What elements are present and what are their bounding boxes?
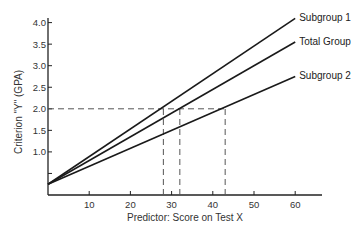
y-axis-title: Criterion "Y" (GPA) <box>13 70 24 154</box>
axes: 1020304050601.01.52.02.53.03.54.0 <box>33 17 322 210</box>
chart: 1020304050601.01.52.02.53.03.54.0 Predic… <box>0 0 360 232</box>
y-tick-label: 3.0 <box>33 60 46 71</box>
y-tick-label: 2.0 <box>33 103 46 114</box>
y-tick-label: 1.5 <box>33 125 46 136</box>
x-tick-label: 50 <box>249 199 260 210</box>
labels: Predictor: Score on Test XCriterion "Y" … <box>13 12 351 223</box>
series-line-subgroup-2 <box>48 76 295 184</box>
y-tick-label: 3.5 <box>33 39 46 50</box>
dashed-guides <box>48 109 225 195</box>
series-line-total-group <box>48 42 295 184</box>
x-tick-label: 10 <box>84 199 95 210</box>
series-lines <box>48 18 295 184</box>
x-tick-label: 30 <box>166 199 177 210</box>
y-tick-label: 2.5 <box>33 82 46 93</box>
x-tick-label: 60 <box>290 199 301 210</box>
x-tick-label: 20 <box>125 199 136 210</box>
x-tick-label: 40 <box>208 199 219 210</box>
x-axis-title: Predictor: Score on Test X <box>127 212 243 223</box>
series-label: Subgroup 2 <box>299 70 351 81</box>
y-tick-label: 4.0 <box>33 17 46 28</box>
series-label: Subgroup 1 <box>299 12 351 23</box>
y-tick-label: 1.0 <box>33 146 46 157</box>
series-line-subgroup-1 <box>48 18 295 184</box>
series-label: Total Group <box>299 36 351 47</box>
